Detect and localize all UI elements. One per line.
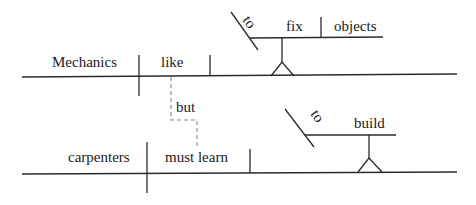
clause-2-verb: must learn: [165, 149, 228, 165]
clause-1-infinitive-verb: fix: [286, 18, 303, 34]
clause-1-infinitive-phrase: to fix objects: [231, 12, 383, 76]
conjunction-word: but: [176, 99, 196, 115]
sentence-diagram: Mechanics like to fix objects but carpen…: [0, 0, 476, 205]
clause-1-verb: like: [161, 54, 184, 70]
clause-2-baseline: [22, 172, 457, 174]
clause-2-infinitive-marker: to: [308, 107, 328, 126]
clause-1: Mechanics like to fix objects: [22, 12, 457, 96]
clause-1-subject: Mechanics: [52, 54, 117, 70]
clause-1-pedestal-base: [271, 62, 294, 76]
clause-2-subject: carpenters: [68, 149, 130, 165]
clause-1-infinitive-platform: [250, 37, 383, 38]
conjunction-connector: but: [171, 77, 197, 146]
clause-2: carpenters must learn to build: [22, 107, 457, 193]
clause-2-pedestal-base: [358, 158, 382, 172]
clause-1-infinitive-object: objects: [334, 18, 377, 34]
clause-1-baseline: [22, 74, 457, 77]
clause-2-infinitive-phrase: to build: [285, 107, 396, 172]
clause-2-infinitive-verb: build: [354, 115, 385, 131]
